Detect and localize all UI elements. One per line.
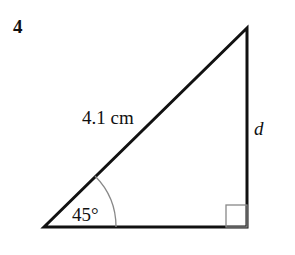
hypotenuse-label: 4.1 cm (82, 107, 134, 128)
right-angle-marker (226, 205, 247, 227)
angle-label: 45° (72, 204, 99, 225)
triangle-diagram: 4.1 cm d 45° (0, 0, 295, 255)
right-triangle (44, 28, 247, 227)
side-d-label: d (254, 118, 264, 139)
